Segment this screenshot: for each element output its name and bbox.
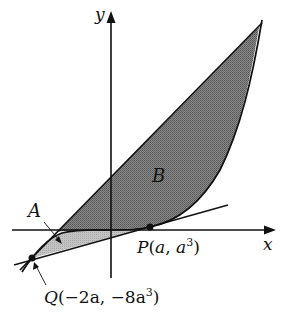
point-q-x: −2a <box>65 287 100 307</box>
point-p-y-exp: 3 <box>186 236 193 249</box>
label-q-leader <box>36 266 46 285</box>
x-axis-label: x <box>263 234 273 254</box>
y-axis-label: y <box>95 4 105 24</box>
point-p-label: P(a, a3) <box>137 236 200 257</box>
point-p-name: P <box>137 237 148 257</box>
point-q-name: Q <box>44 287 58 307</box>
diagram-canvas <box>0 0 284 320</box>
region-b-label: B <box>152 165 165 186</box>
label-q-arrow-icon <box>33 262 39 270</box>
point-q-label: Q(−2a, −8a3) <box>44 286 159 307</box>
point-p-y: a <box>176 237 186 257</box>
point-p-x: a <box>155 237 165 257</box>
region-a-label: A <box>28 200 41 221</box>
point-q-y-exp: 3 <box>146 286 153 299</box>
point-q-marker <box>29 255 36 262</box>
point-p-marker <box>147 224 154 231</box>
y-axis-arrow-icon <box>107 11 116 23</box>
point-q-y: −8a <box>111 287 146 307</box>
cubic-tangent-diagram: y x B A P(a, a3) Q(−2a, −8a3) <box>0 0 284 320</box>
